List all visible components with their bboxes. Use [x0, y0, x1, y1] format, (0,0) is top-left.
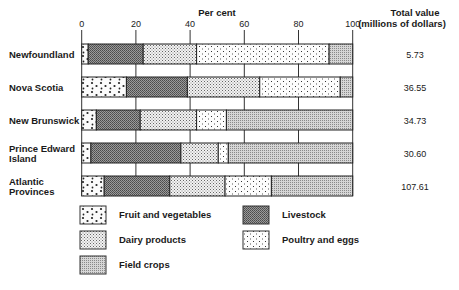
category-label: New Brunswick: [9, 115, 80, 126]
legend-label: Poultry and eggs: [282, 234, 359, 245]
x-tick-label: 0: [79, 19, 84, 29]
category-label: Island: [9, 153, 37, 164]
bar-segment-field-crops: [226, 110, 352, 130]
total-value-header-line: (millions of dollars): [358, 18, 446, 29]
total-value-header: Total value(millions of dollars): [358, 7, 446, 29]
total-value-label: 36.55: [404, 83, 427, 93]
legend-swatch: [80, 206, 106, 224]
bar-segment-field-crops: [329, 44, 353, 64]
legend-label: Fruit and vegetables: [119, 209, 211, 220]
legend-swatch: [80, 231, 106, 249]
total-value-header-line: Total value: [391, 7, 440, 18]
legend-label: Livestock: [282, 209, 327, 220]
bar-segment-field-crops: [340, 77, 352, 97]
bar-segment-livestock: [126, 77, 187, 97]
bar-segment-livestock: [88, 44, 143, 64]
bar-segment-livestock: [91, 143, 181, 163]
bar-segment-poultry-and-eggs: [225, 176, 271, 196]
bar-segment-dairy-products: [181, 143, 218, 163]
legend-item-poultry-and-eggs: Poultry and eggs: [243, 231, 359, 249]
bar-segment-fruit-and-vegetables: [82, 110, 97, 130]
bar-row-atlantic-provinces: [82, 176, 353, 196]
legend-swatch: [243, 231, 269, 249]
bar-segment-fruit-and-vegetables: [82, 77, 127, 97]
bar-segment-dairy-products: [140, 110, 196, 130]
x-axis-title: Per cent: [198, 7, 236, 18]
bar-row-new-brunswick: [82, 110, 353, 130]
total-value-label: 34.73: [404, 116, 427, 126]
total-value-label: 107.61: [401, 182, 429, 192]
bar-segment-dairy-products: [170, 176, 225, 196]
legend-item-livestock: Livestock: [243, 206, 327, 224]
bar-row-prince-edward-island: [82, 143, 353, 163]
x-tick-label: 20: [131, 19, 141, 29]
bar-segment-fruit-and-vegetables: [82, 44, 89, 64]
bar-segment-livestock: [104, 176, 170, 196]
legend-label: Field crops: [119, 259, 170, 270]
bar-segment-fruit-and-vegetables: [82, 176, 104, 196]
bar-segment-poultry-and-eggs: [218, 143, 228, 163]
x-tick-label: 60: [239, 19, 249, 29]
x-tick-label: 40: [185, 19, 195, 29]
bar-row-nova-scotia: [82, 77, 353, 97]
x-axis: 020406080100: [79, 19, 360, 29]
legend-item-field-crops: Field crops: [80, 256, 170, 274]
total-values: 5.7336.5534.7330.60107.61: [401, 50, 429, 192]
category-label: Newfoundland: [9, 49, 75, 60]
stacked-bar-chart: Per cent 020406080100 Total value(millio…: [0, 0, 459, 290]
total-value-label: 5.73: [406, 50, 424, 60]
bar-segment-poultry-and-eggs: [197, 44, 330, 64]
bar-segment-poultry-and-eggs: [260, 77, 340, 97]
legend-label: Dairy products: [119, 234, 186, 245]
bar-segment-dairy-products: [143, 44, 196, 64]
legend-swatch: [80, 256, 106, 274]
bars: [82, 44, 353, 196]
bar-segment-field-crops: [228, 143, 352, 163]
category-label: Provinces: [9, 186, 54, 197]
bar-row-newfoundland: [82, 44, 353, 64]
legend-item-dairy-products: Dairy products: [80, 231, 186, 249]
bar-segment-field-crops: [271, 176, 352, 196]
legend-item-fruit-and-vegetables: Fruit and vegetables: [80, 206, 211, 224]
legend: Fruit and vegetablesLivestockDairy produ…: [80, 206, 359, 274]
category-labels: NewfoundlandNova ScotiaNew BrunswickPrin…: [9, 49, 80, 197]
bar-segment-livestock: [96, 110, 140, 130]
bar-segment-fruit-and-vegetables: [82, 143, 91, 163]
category-label: Nova Scotia: [9, 82, 64, 93]
bar-segment-dairy-products: [187, 77, 259, 97]
total-value-label: 30.60: [404, 149, 427, 159]
legend-swatch: [243, 206, 269, 224]
bar-segment-poultry-and-eggs: [197, 110, 227, 130]
x-tick-label: 80: [293, 19, 303, 29]
